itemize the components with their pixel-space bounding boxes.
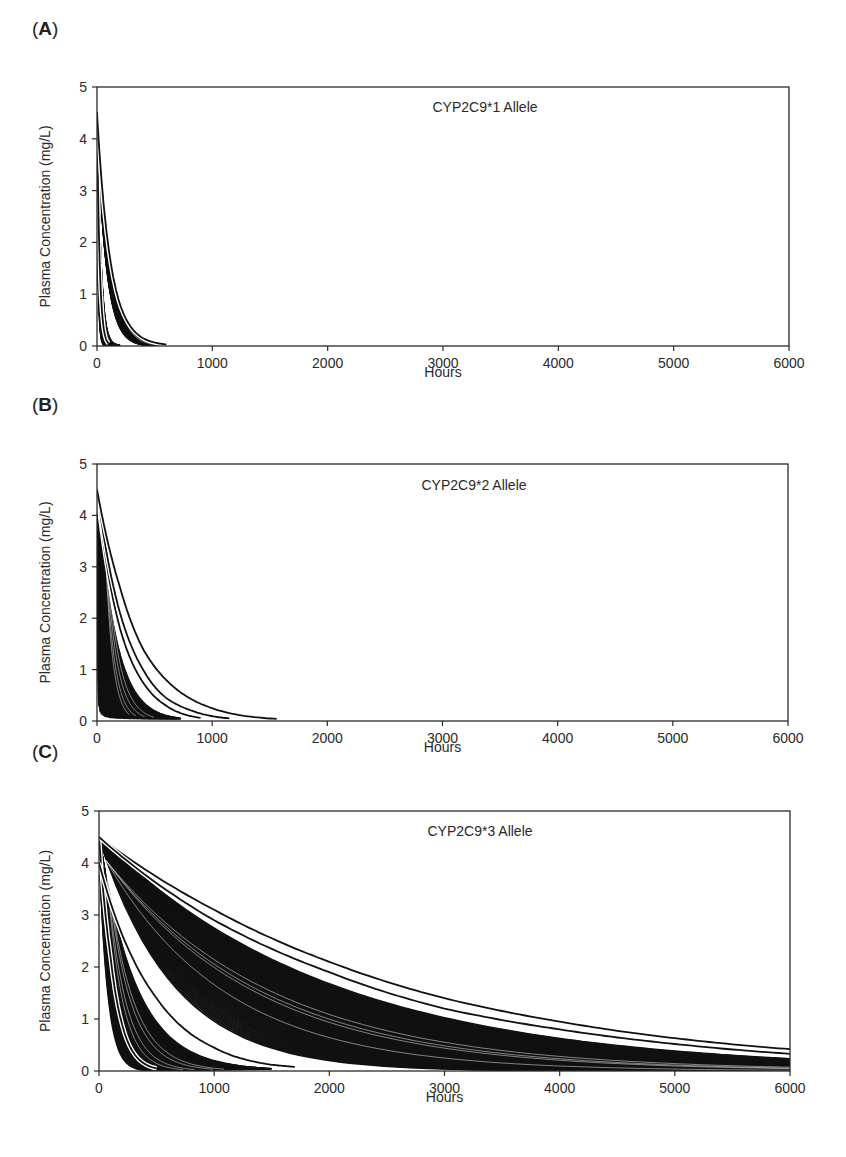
y-tick-label: 3 — [81, 907, 89, 923]
y-tick-label: 1 — [79, 286, 87, 302]
y-tick-label: 2 — [81, 959, 89, 975]
y-tick-label: 1 — [81, 1011, 89, 1027]
y-tick-label: 0 — [79, 338, 87, 354]
x-tick-label: 5000 — [658, 355, 689, 371]
x-tick-label: 1000 — [197, 355, 228, 371]
x-tick-label: 5000 — [657, 730, 688, 746]
y-tick-label: 2 — [79, 234, 87, 250]
chart-canvas: 0123450100020003000400050006000HoursPlas… — [0, 0, 846, 1157]
y-tick-label: 5 — [81, 803, 89, 819]
y-tick-label: 3 — [79, 559, 87, 575]
plot-frame — [97, 464, 788, 721]
x-tick-label: 0 — [93, 355, 101, 371]
y-tick-label: 4 — [81, 855, 89, 871]
x-tick-label: 1000 — [197, 730, 228, 746]
y-axis-title: Plasma Concentration (mg/L) — [37, 501, 53, 683]
panel-c-plot: 0123450100020003000400050006000HoursPlas… — [37, 803, 806, 1105]
x-tick-label: 4000 — [544, 1080, 575, 1096]
x-tick-label: 2000 — [312, 355, 343, 371]
x-tick-label: 0 — [93, 730, 101, 746]
allele-annotation: CYP2C9*2 Allele — [421, 477, 526, 493]
x-tick-label: 4000 — [542, 730, 573, 746]
y-tick-label: 4 — [79, 131, 87, 147]
y-tick-label: 5 — [79, 456, 87, 472]
data-curves — [97, 113, 166, 346]
x-tick-label: 2000 — [312, 730, 343, 746]
y-tick-label: 0 — [79, 713, 87, 729]
x-tick-label: 1000 — [199, 1080, 230, 1096]
y-tick-label: 3 — [79, 183, 87, 199]
allele-annotation: CYP2C9*3 Allele — [427, 823, 532, 839]
panel-a-plot: 0123450100020003000400050006000HoursPlas… — [37, 79, 805, 380]
x-axis-title: Hours — [424, 364, 461, 380]
x-axis-title: Hours — [424, 739, 461, 755]
x-tick-label: 2000 — [314, 1080, 345, 1096]
x-tick-label: 6000 — [773, 355, 804, 371]
x-axis-title: Hours — [426, 1089, 463, 1105]
data-curves — [99, 837, 790, 1071]
y-axis-title: Plasma Concentration (mg/L) — [37, 850, 53, 1032]
y-tick-label: 0 — [81, 1063, 89, 1079]
x-tick-label: 5000 — [659, 1080, 690, 1096]
x-tick-label: 6000 — [774, 1080, 805, 1096]
panel-b-plot: 0123450100020003000400050006000HoursPlas… — [37, 456, 804, 755]
y-axis-title: Plasma Concentration (mg/L) — [37, 125, 53, 307]
y-tick-label: 4 — [79, 507, 87, 523]
x-tick-label: 0 — [95, 1080, 103, 1096]
y-tick-label: 5 — [79, 79, 87, 95]
data-curves — [97, 490, 277, 719]
y-tick-label: 2 — [79, 610, 87, 626]
x-tick-label: 6000 — [772, 730, 803, 746]
x-tick-label: 4000 — [543, 355, 574, 371]
y-tick-label: 1 — [79, 662, 87, 678]
allele-annotation: CYP2C9*1 Allele — [432, 99, 537, 115]
plot-frame — [97, 87, 789, 346]
